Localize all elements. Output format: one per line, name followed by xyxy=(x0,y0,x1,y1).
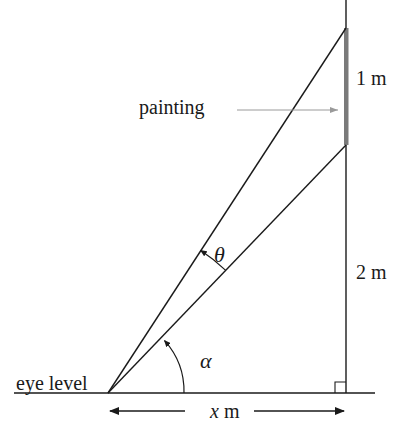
distance-label: x m xyxy=(207,401,242,421)
painting-label: painting xyxy=(139,97,205,117)
diagram-canvas: painting 1 m 2 m eye level θ α x m xyxy=(0,0,402,422)
alpha-label: α xyxy=(200,350,212,372)
painting-height-label: 1 m xyxy=(356,68,387,88)
sight-line-bottom xyxy=(108,145,346,393)
sight-line-top xyxy=(108,28,346,393)
distance-variable: x xyxy=(210,400,219,422)
right-angle-marker xyxy=(335,382,346,393)
wall-height-label: 2 m xyxy=(356,262,387,282)
alpha-arc xyxy=(165,341,184,393)
distance-unit: m xyxy=(224,400,240,422)
painting-bar xyxy=(344,28,349,145)
eye-level-label: eye level xyxy=(16,373,88,393)
theta-label: θ xyxy=(214,244,225,266)
